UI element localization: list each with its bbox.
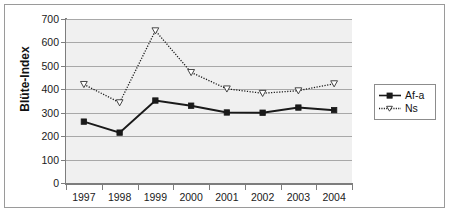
legend-label-af-a: Af-a [402,90,424,101]
data-point-marker-triangle [188,70,195,76]
chart-legend: Af-a Ns [374,84,436,120]
data-point-marker-square [224,110,229,115]
data-point-marker-triangle [152,28,159,34]
legend-item-ns: Ns [378,102,431,115]
series-line [84,31,334,103]
data-point-marker-triangle [331,81,338,87]
series-ns [80,28,337,106]
legend-item-af-a: Af-a [378,89,431,102]
data-point-marker-square [153,98,158,103]
data-point-marker-triangle [116,100,123,106]
data-point-marker-square [188,103,193,108]
data-point-marker-triangle [80,81,87,87]
legend-label-ns: Ns [402,103,418,114]
legend-marker-square-solid-line-icon [378,90,402,101]
legend-marker-triangle-dotted-line-icon [378,103,402,114]
data-point-marker-square [296,105,301,110]
data-point-marker-square [331,107,336,112]
data-point-marker-square [117,130,122,135]
data-point-marker-square [260,110,265,115]
chart-figure: 0100200300400500600700 19971998199920002… [0,0,450,213]
data-point-marker-square [81,119,86,124]
